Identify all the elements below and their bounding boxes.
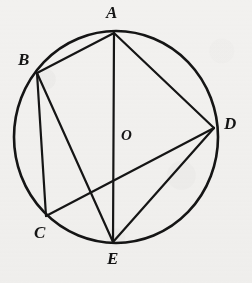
- vertex-label-B: B: [18, 51, 29, 68]
- vertex-label-D: D: [224, 115, 236, 132]
- chord-BC: [37, 73, 46, 216]
- vertex-label-A: A: [106, 4, 117, 21]
- vertex-label-C: C: [34, 224, 45, 241]
- vertex-label-E: E: [107, 250, 118, 267]
- center-label-O: O: [121, 128, 132, 143]
- chord-DE: [113, 128, 214, 242]
- chord-AE: [113, 33, 114, 242]
- chord-AD: [114, 33, 214, 128]
- geometry-figure: A B C D E O: [0, 0, 252, 283]
